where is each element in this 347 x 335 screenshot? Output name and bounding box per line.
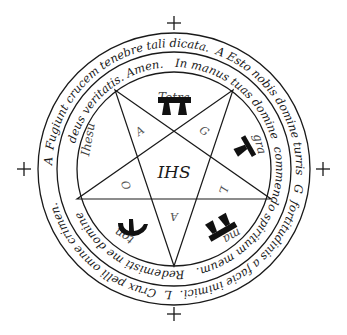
outer-mark-right: G bbox=[291, 183, 306, 194]
cross-left bbox=[17, 162, 31, 176]
point-letter-g: G bbox=[197, 123, 212, 139]
center-monogram: IHS bbox=[156, 162, 190, 182]
cross-right bbox=[316, 162, 330, 176]
point-letter-a-bottom: A bbox=[170, 210, 179, 223]
outer-mark-left: A bbox=[41, 156, 56, 166]
point-letter-a-top: A bbox=[132, 124, 147, 140]
cross-bottom bbox=[167, 307, 181, 321]
point-letter-o: O bbox=[119, 178, 134, 191]
point-letter-l: L bbox=[216, 184, 231, 196]
tau-double-glyph bbox=[158, 97, 191, 115]
pentagram-seal: A Fugiunt crucem tenebre tali dicata. A … bbox=[0, 0, 347, 335]
cross-top bbox=[167, 16, 181, 30]
outer-mark-bottom: L bbox=[164, 288, 173, 302]
